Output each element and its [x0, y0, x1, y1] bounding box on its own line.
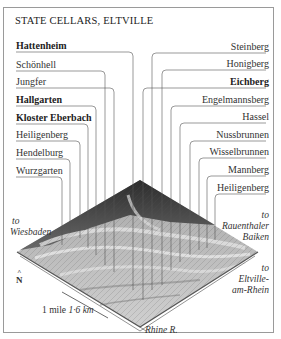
label-kloster-eberbach: Kloster Eberbach	[16, 112, 92, 124]
north-arrow-icon: ^ N	[16, 268, 23, 284]
label-eichberg: Eichberg	[230, 76, 269, 88]
label-nussbrunnen: Nussbrunnen	[216, 129, 269, 141]
label-engelmannsberg: Engelmannsberg	[202, 94, 269, 106]
label-hattenheim: Hattenheim	[16, 40, 67, 52]
label-wisselbrunnen: Wisselbrunnen	[209, 146, 269, 158]
river-label: Rhine R.	[145, 325, 178, 336]
direction-wiesbaden: to Wiesbaden	[10, 216, 51, 238]
label-wurzgarten: Wurzgarten	[16, 165, 63, 177]
label-hendelburg: Hendelburg	[16, 147, 63, 159]
label-heiligenberg-left: Heiligenberg	[16, 129, 68, 141]
label-steinberg: Steinberg	[231, 41, 269, 53]
direction-eltville: to Eltville- am-Rhein	[232, 263, 269, 296]
label-schonhell: Schönhell	[16, 59, 56, 71]
label-heiligenberg-right: Heiligenberg	[217, 182, 269, 194]
label-hallgarten: Hallgarten	[16, 94, 62, 106]
label-hassel: Hassel	[242, 111, 269, 123]
label-mannberg: Mannberg	[228, 164, 269, 176]
label-honigberg: Honigberg	[226, 58, 269, 70]
label-jungfer: Jungfer	[16, 76, 46, 88]
scale-label: 1 mile 1·6 km	[42, 305, 94, 315]
map-title: STATE CELLARS, ELTVILLE	[15, 15, 153, 26]
direction-rauenthaler-baiken: to Rauenthaler Baiken	[222, 210, 269, 243]
